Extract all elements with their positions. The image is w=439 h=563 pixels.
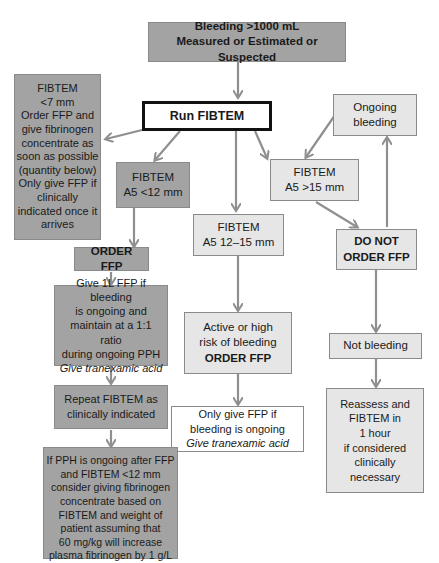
node-reassess-line: if considered <box>340 441 410 456</box>
node-fibtem-gt15: FIBTEM A5 >15 mm <box>270 159 359 201</box>
node-pph-line: concentrate based on <box>47 495 175 509</box>
node-do-not-order-line-2: ORDER FFP <box>343 250 409 265</box>
node-fibtem-lt7-line: FIBTEM <box>17 82 99 96</box>
node-order-ffp: ORDER FFP <box>74 247 149 271</box>
node-pph-line: If PPH is ongoing after FFP <box>47 454 175 468</box>
node-fibtem-12-15-line-1: FIBTEM <box>203 220 275 235</box>
node-give-1l-line: during ongoing PPH <box>59 347 163 361</box>
node-not-bleeding: Not bleeding <box>329 333 422 359</box>
node-ongoing-bleeding-line-1: Ongoing <box>353 100 396 115</box>
node-not-bleeding-label: Not bleeding <box>343 338 408 353</box>
node-do-not-order-line-1: DO NOT <box>343 234 409 249</box>
node-fibtem-lt7-line: indicated once it <box>17 205 99 219</box>
node-repeat-line-1: Repeat FIBTEM as <box>64 392 158 407</box>
node-fibtem-lt7-line: <7 mm <box>17 96 99 110</box>
node-fibtem-gt15-line-1: FIBTEM <box>285 165 344 180</box>
node-fibtem-lt12-line-2: A5 <12 mm <box>123 185 182 200</box>
node-give-1l-line: Give 1L FFP if bleeding <box>59 276 163 304</box>
node-repeat-line-2: clinically indicated <box>64 407 158 422</box>
node-bleeding-start-line-1: Bleeding >1000 mL <box>153 19 341 34</box>
node-give-1l-italic: Give tranexamic acid <box>59 361 163 375</box>
node-only-give-italic: Give tranexamic acid <box>186 436 289 451</box>
node-active-high-risk: Active or high risk of bleeding ORDER FF… <box>184 312 292 374</box>
node-pph-line: 60 mg/kg will increase <box>47 536 175 550</box>
node-fibtem-lt7-line: arrives <box>17 218 99 232</box>
node-fibtem-12-15-line-2: A5 12–15 mm <box>203 235 275 250</box>
node-fibtem-lt7-line: Order FFP and <box>17 109 99 123</box>
node-reassess: Reassess and FIBTEM in 1 hour if conside… <box>326 388 424 493</box>
node-active-line-1: Active or high <box>199 320 276 335</box>
node-pph-ongoing: If PPH is ongoing after FFP and FIBTEM <… <box>43 447 178 559</box>
node-ongoing-bleeding: Ongoing bleeding <box>333 94 417 136</box>
node-bleeding-start-line-2: Measured or Estimated or Suspected <box>153 34 341 64</box>
node-reassess-line: necessary <box>340 470 410 485</box>
node-fibtem-lt7-line: clinically <box>17 191 99 205</box>
node-fibtem-lt12: FIBTEM A5 <12 mm <box>116 162 190 208</box>
node-reassess-line: Reassess and <box>340 397 410 412</box>
node-only-give-ffp: Only give FFP if bleeding is ongoing Giv… <box>171 406 304 452</box>
node-fibtem-lt12-line-1: FIBTEM <box>123 170 182 185</box>
node-order-ffp-label: ORDER FFP <box>79 244 144 274</box>
node-give-1l-ffp: Give 1L FFP if bleeding is ongoing and m… <box>54 285 168 366</box>
node-fibtem-lt7-line: Only give FFP if <box>17 177 99 191</box>
node-pph-line: FIBTEM and weight of <box>47 509 175 523</box>
node-active-order-ffp: ORDER FFP <box>199 351 276 366</box>
node-reassess-line: FIBTEM in <box>340 411 410 426</box>
node-run-fibtem-label: Run FIBTEM <box>170 108 244 125</box>
node-fibtem-lt7-line: soon as possible <box>17 150 99 164</box>
node-give-1l-line: is ongoing and <box>59 304 163 318</box>
node-reassess-line: 1 hour <box>340 426 410 441</box>
node-pph-line: patient assuming that <box>47 522 175 536</box>
node-fibtem-12-15: FIBTEM A5 12–15 mm <box>193 214 284 256</box>
node-pph-line: plasma fibrinogen by 1 g/L <box>47 549 175 563</box>
node-do-not-order-ffp: DO NOT ORDER FFP <box>336 229 417 270</box>
node-give-1l-line: maintain at a 1:1 ratio <box>59 318 163 346</box>
node-pph-line: and FIBTEM <12 mm <box>47 468 175 482</box>
node-repeat-fibtem: Repeat FIBTEM as clinically indicated <box>54 385 168 429</box>
node-run-fibtem: Run FIBTEM <box>142 101 272 131</box>
node-only-give-line-1: Only give FFP if <box>186 407 289 422</box>
node-fibtem-lt7-line: (quantity below) <box>17 164 99 178</box>
node-fibtem-lt7-line: concentrate as <box>17 137 99 151</box>
node-active-line-2: risk of bleeding <box>199 335 276 350</box>
node-ongoing-bleeding-line-2: bleeding <box>353 115 396 130</box>
node-fibtem-lt7: FIBTEM <7 mm Order FFP and give fibrinog… <box>14 74 101 240</box>
node-fibtem-gt15-line-2: A5 >15 mm <box>285 180 344 195</box>
node-reassess-line: clinically <box>340 455 410 470</box>
node-fibtem-lt7-line: give fibrinogen <box>17 123 99 137</box>
node-pph-line: consider giving fibrinogen <box>47 481 175 495</box>
node-bleeding-start: Bleeding >1000 mL Measured or Estimated … <box>148 22 346 62</box>
node-only-give-line-2: bleeding is ongoing <box>186 422 289 437</box>
